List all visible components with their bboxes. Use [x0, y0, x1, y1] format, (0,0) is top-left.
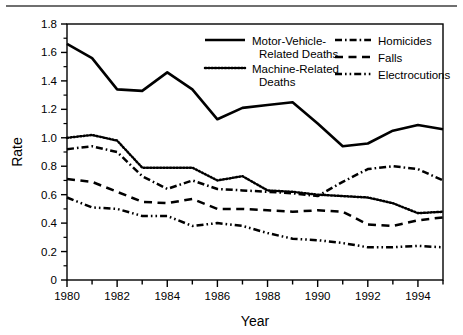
series-line-machine-related-deaths [67, 135, 443, 213]
figure-container: 00.20.40.60.81.01.21.41.61.8 19801982198… [0, 0, 463, 335]
legend-item: Falls [335, 52, 403, 64]
x-axis-tick-labels: 19801982198419861988199019921994 [54, 290, 431, 302]
legend-item: Motor-Vehicle-Related Deaths [205, 35, 339, 60]
y-tick-label: 1.8 [41, 18, 57, 30]
series-line-homicides [67, 146, 443, 196]
y-axis-title: Rate [9, 137, 25, 167]
series-line-electrocutions [67, 198, 443, 248]
legend-label: Electrocutions [378, 69, 450, 81]
legend-label: Falls [378, 52, 403, 64]
legend-label-line2: Related Deaths [259, 48, 339, 60]
y-tick-label: 1.6 [41, 46, 57, 58]
y-tick-label: 0 [51, 274, 57, 286]
x-axis-ticks [67, 280, 443, 287]
y-axis-tick-labels: 00.20.40.60.81.01.21.41.61.8 [41, 18, 58, 286]
x-axis-title: Year [241, 313, 270, 329]
line-chart: 00.20.40.60.81.01.21.41.61.8 19801982198… [0, 0, 463, 335]
chart-legend: Motor-Vehicle-Related DeathsMachine-Rela… [205, 35, 450, 88]
y-tick-label: 0.8 [41, 160, 57, 172]
x-tick-label: 1988 [255, 290, 281, 302]
legend-label-line2: Deaths [259, 76, 296, 88]
legend-label: Homicides [378, 35, 432, 47]
legend-label: Machine-Related [252, 63, 339, 75]
x-tick-label: 1992 [355, 290, 381, 302]
x-tick-label: 1990 [305, 290, 331, 302]
y-tick-label: 0.4 [41, 217, 58, 229]
y-tick-label: 0.2 [41, 246, 57, 258]
legend-item: Electrocutions [335, 69, 450, 81]
x-tick-label: 1994 [405, 290, 431, 302]
x-tick-label: 1980 [54, 290, 80, 302]
legend-item: Machine-RelatedDeaths [205, 63, 339, 88]
x-tick-label: 1982 [104, 290, 130, 302]
legend-label: Motor-Vehicle- [252, 35, 326, 47]
y-tick-label: 1.0 [41, 132, 57, 144]
y-tick-label: 1.2 [41, 103, 57, 115]
x-tick-label: 1984 [154, 290, 180, 302]
legend-item: Homicides [335, 35, 432, 47]
y-tick-label: 1.4 [41, 75, 58, 87]
x-tick-label: 1986 [205, 290, 231, 302]
y-tick-label: 0.6 [41, 189, 57, 201]
